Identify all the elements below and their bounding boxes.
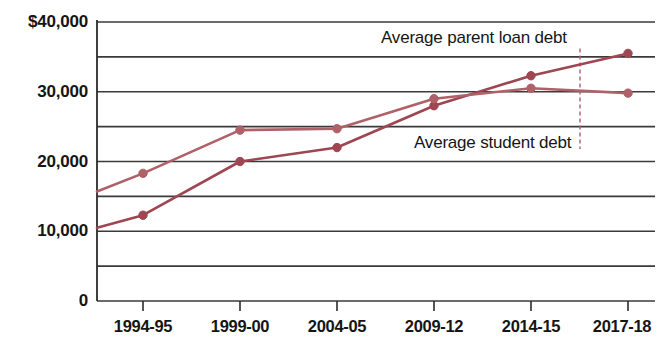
x-axis-tick-label: 2009-12 <box>405 317 463 336</box>
data-point <box>624 89 632 97</box>
x-tick-group <box>143 301 628 311</box>
x-axis-tick-label: 1994-95 <box>114 317 172 336</box>
y-axis-tick-label: $40,000 <box>28 12 88 32</box>
data-point <box>333 143 341 151</box>
y-axis-tick-label: 30,000 <box>37 82 88 102</box>
data-point <box>333 125 341 133</box>
chart-svg <box>0 0 668 356</box>
data-point <box>139 211 147 219</box>
annotation-student-debt: Average student debt <box>414 133 571 153</box>
x-axis-tick-label: 2004-05 <box>308 317 366 336</box>
data-point <box>236 126 244 134</box>
y-axis-tick-label: 20,000 <box>37 152 88 172</box>
gridline-group <box>97 22 655 301</box>
x-axis-tick-label: 1999-00 <box>211 317 269 336</box>
y-axis-tick-label: 10,000 <box>37 221 88 241</box>
annotation-parent-loan-debt: Average parent loan debt <box>381 28 567 48</box>
chart-container: $40,00030,00020,00010,0000 1994-951999-0… <box>0 0 668 356</box>
y-axis-tick-label: 0 <box>79 291 88 311</box>
x-axis-tick-label: 2017-18 <box>593 317 651 336</box>
data-point <box>139 169 147 177</box>
data-point <box>624 49 632 57</box>
data-point <box>430 95 438 103</box>
x-axis-tick-label: 2014-15 <box>502 317 560 336</box>
data-point <box>527 84 535 92</box>
data-point <box>527 72 535 80</box>
data-point <box>236 157 244 165</box>
